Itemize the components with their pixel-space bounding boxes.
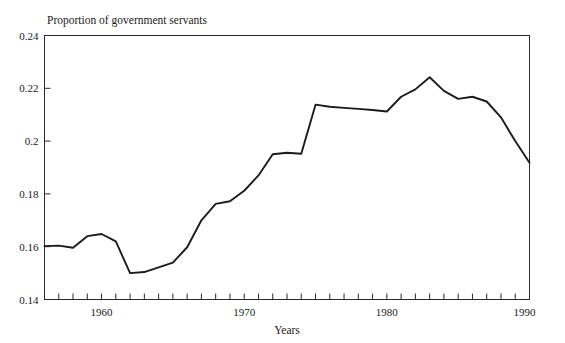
x-tick-label: 1990 — [514, 306, 537, 318]
y-tick-label: 0.24 — [19, 30, 39, 42]
x-axis: 1960197019801990 — [45, 294, 537, 318]
y-tick-label: 0.2 — [25, 135, 39, 147]
x-tick-label: 1960 — [91, 306, 114, 318]
x-tick-label: 1980 — [376, 306, 399, 318]
y-axis: 0.140.160.180.20.220.24 — [19, 30, 50, 306]
x-tick-label: 1970 — [233, 306, 256, 318]
line-chart: 0.140.160.180.20.220.24 1960197019801990… — [0, 0, 565, 343]
y-tick-label: 0.14 — [19, 294, 39, 306]
y-tick-label: 0.16 — [19, 241, 39, 253]
y-tick-label: 0.22 — [19, 82, 38, 94]
y-tick-label: 0.18 — [19, 188, 39, 200]
plot-frame — [45, 36, 530, 300]
x-axis-title: Years — [274, 324, 300, 336]
data-series-line — [45, 77, 530, 273]
chart-title: Proportion of government servants — [47, 14, 208, 27]
chart-figure: 0.140.160.180.20.220.24 1960197019801990… — [0, 0, 565, 343]
